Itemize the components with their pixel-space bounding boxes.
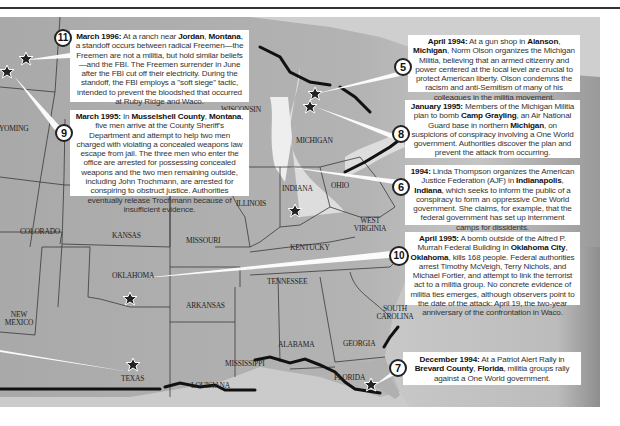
event-marker-jordan-star-icon[interactable] — [19, 52, 33, 66]
callout-place: Oklahoma City — [511, 243, 566, 252]
top-rule — [0, 7, 620, 9]
state-label-illinois: ILLINOIS — [236, 200, 266, 208]
callout-text: , — [562, 176, 564, 185]
callout-text: , — [565, 243, 567, 252]
callout-9-musselshell-montana: March 1995: In Musselshell County, Monta… — [70, 110, 249, 196]
state-label-colorado: COLORADO — [20, 228, 60, 236]
callout-number-9: 9 — [55, 124, 73, 142]
state-label-wyoming: WYOMING — [0, 125, 29, 133]
state-label-missouri: MISSOURI — [186, 237, 220, 245]
state-label-oklahoma: OKLAHOMA — [112, 272, 154, 280]
callout-place: Jordan — [178, 32, 204, 41]
callout-text: At a gun shop in — [469, 37, 527, 46]
callout-5-alanson-michigan: April 1994: At a gun shop in Alanson, Mi… — [408, 35, 580, 92]
callout-8-camp-grayling: January 1995: Members of the Michigan Mi… — [405, 100, 580, 158]
callout-date: March 1995: — [76, 112, 121, 121]
callout-number-7: 7 — [389, 359, 407, 377]
callout-place: Michigan — [413, 46, 447, 55]
callout-date: December 1994: — [420, 355, 480, 364]
callout-text: , — [558, 37, 560, 46]
state-label-arkansas: ARKANSAS — [186, 302, 225, 310]
state-label-louisiana: LOUISIANA — [191, 382, 230, 390]
callout-date: April 1995: — [419, 234, 459, 243]
event-marker-alanson-star-icon[interactable] — [308, 87, 322, 101]
callout-place: Alanson — [527, 37, 558, 46]
event-marker-brevard-star-icon[interactable] — [364, 378, 378, 392]
state-label-michigan: MICHIGAN — [296, 137, 333, 145]
callout-date: 1994: — [411, 167, 431, 176]
state-label-new-mexico: NEW MEXICO — [4, 311, 34, 327]
callout-number-6: 6 — [392, 178, 410, 196]
callout-text: , Norm Olson organizes the Michigan Mili… — [415, 46, 575, 101]
event-marker-camp-grayling-star-icon[interactable] — [303, 100, 317, 114]
callout-11-jordan-montana: March 1996: At a ranch near Jordan, Mont… — [70, 30, 249, 102]
callout-6-indianapolis: 1994: Linda Thompson organizes the Ameri… — [405, 165, 580, 225]
state-label-indiana: INDIANA — [282, 185, 313, 193]
callout-place: Camp Grayling — [461, 111, 517, 120]
callout-number-11: 11 — [54, 29, 72, 47]
callout-place: Indianapolis — [516, 176, 561, 185]
callout-place: Oklahoma — [411, 253, 449, 262]
callout-text: At a ranch near — [123, 32, 178, 41]
event-marker-indianapolis-star-icon[interactable] — [288, 204, 302, 218]
state-label-mississippi: MISSISSIPPI — [225, 360, 265, 368]
callout-number-5: 5 — [394, 58, 412, 76]
state-label-alabama: ALABAMA — [278, 341, 315, 349]
state-label-florida: FLORIDA — [334, 374, 365, 382]
callout-text: At a Patriot Alert Rally in — [481, 355, 564, 364]
callout-text: , kills 168 people. Federal authorities … — [410, 253, 574, 318]
callout-text: , a standoff occurs between radical Free… — [76, 32, 244, 106]
callout-place: Indiana — [414, 186, 441, 195]
state-label-south-carolina: SOUTH CAROLINA — [375, 305, 415, 321]
callout-place: Michigan — [510, 121, 544, 130]
state-label-kentucky: KENTUCKY — [290, 244, 330, 252]
state-label-kansas: KANSAS — [112, 232, 141, 240]
callout-number-8: 8 — [392, 125, 410, 143]
callout-place: Montana — [209, 112, 241, 121]
callout-date: April 1994: — [428, 37, 468, 46]
callout-7-brevard-florida: December 1994: At a Patriot Alert Rally … — [403, 352, 581, 385]
callout-number-10: 10 — [389, 246, 409, 266]
callout-place: Brevard County — [415, 364, 474, 373]
callout-place: Musselshell County — [131, 112, 204, 121]
callout-place: Florida — [477, 364, 503, 373]
event-marker-texas-star-icon[interactable] — [126, 358, 140, 372]
callout-10-oklahoma-city: April 1995: A bomb outside of the Alfred… — [405, 232, 580, 305]
state-label-west-virginia: WEST VIRGINIA — [353, 217, 387, 233]
state-label-texas: TEXAS — [121, 375, 144, 383]
callout-date: March 1996: — [76, 32, 121, 41]
event-marker-oklahoma-city-star-icon[interactable] — [123, 292, 137, 306]
callout-date: January 1995: — [411, 102, 463, 111]
state-label-tennessee: TENNESSEE — [267, 278, 307, 286]
callout-text: , five men arrive at the County Sheriff'… — [77, 112, 244, 214]
state-label-ohio: OHIO — [331, 182, 349, 190]
state-label-georgia: GEORGIA — [343, 340, 375, 348]
callout-place: Montana — [208, 32, 240, 41]
event-marker-musselshell-star-icon[interactable] — [0, 65, 14, 79]
